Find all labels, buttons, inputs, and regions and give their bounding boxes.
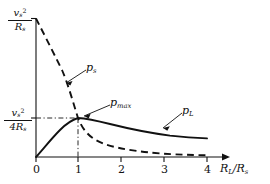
chart-canvas <box>0 0 270 184</box>
x-tick-label-3: 3 <box>161 164 168 175</box>
curve-label-ps: ps <box>86 62 97 74</box>
annotation-label-pmax: pmax <box>110 97 131 109</box>
y-axis-mid-label: vs2 4Rs <box>4 108 32 133</box>
power-transfer-chart: vs2 Rs vs2 4Rs 0 1 2 3 4 RL/Rs ps pmax p… <box>0 0 270 184</box>
y-axis-mid-label-numerator: vs2 <box>4 108 32 119</box>
x-axis-ticks <box>36 157 207 162</box>
x-axis-arrowhead <box>222 154 230 161</box>
x-tick-label-2: 2 <box>118 164 125 175</box>
y-axis-top-label-denominator: Rs <box>8 22 32 33</box>
x-tick-label-0: 0 <box>33 164 40 175</box>
curve-label-pL: pL <box>182 105 194 117</box>
curve-ps <box>36 19 207 156</box>
leader-pL <box>163 113 182 131</box>
x-tick-label-4: 4 <box>204 164 211 175</box>
leader-ps <box>66 70 86 86</box>
leader-pmax <box>84 105 110 119</box>
y-axis-mid-label-denominator: 4Rs <box>4 122 32 133</box>
x-tick-label-1: 1 <box>75 164 82 175</box>
x-axis-title: RL/Rs <box>220 163 248 175</box>
curve-pL <box>36 118 207 157</box>
y-axis-top-label-numerator: vs2 <box>8 8 32 19</box>
y-axis-top-label: vs2 Rs <box>8 8 32 33</box>
